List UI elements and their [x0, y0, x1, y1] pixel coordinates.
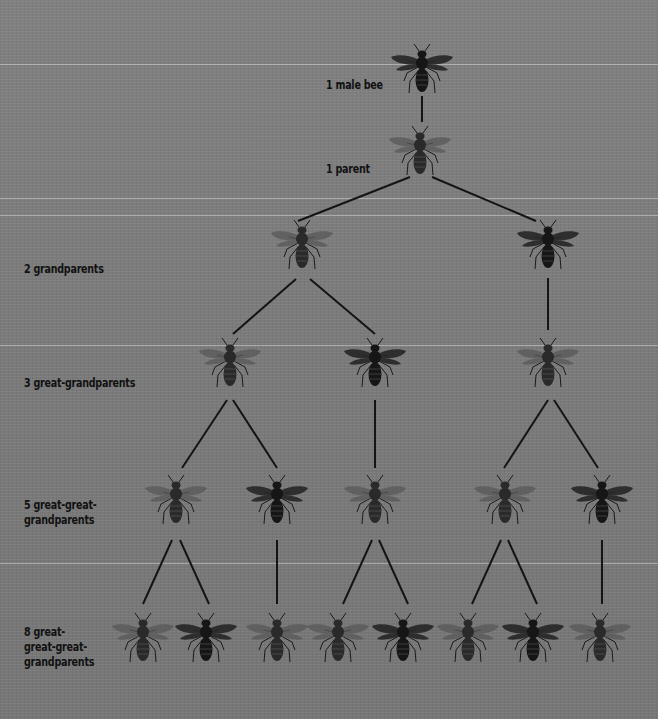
female-bee-icon	[342, 474, 408, 532]
female-bee-icon	[305, 612, 371, 670]
level-label-great-grandparents: 3 great-grandparents	[24, 375, 135, 390]
female-bee-icon	[472, 474, 538, 532]
female-bee-icon	[435, 612, 501, 670]
male-bee-icon	[515, 219, 581, 277]
male-bee-icon	[173, 612, 239, 670]
male-bee-icon	[370, 612, 436, 670]
connector-line	[508, 540, 537, 604]
connector-line	[472, 540, 501, 604]
male-bee-icon	[342, 337, 408, 395]
female-bee-icon	[110, 612, 176, 670]
female-bee-icon	[515, 337, 581, 395]
female-bee-icon	[269, 219, 335, 277]
connector-line	[298, 177, 410, 221]
female-bee-icon	[567, 612, 633, 670]
level-label-great-great-grandparents: 5 great-great- grandparents	[24, 497, 96, 527]
level-label-great-great-great-grandparents: 8 great- great-great- grandparents	[24, 624, 94, 669]
male-bee-icon	[389, 43, 455, 101]
connector-line	[310, 279, 375, 334]
connector-line	[143, 540, 172, 604]
female-bee-icon	[387, 125, 453, 183]
connector-line	[554, 400, 598, 468]
connector-line	[233, 279, 296, 334]
connector-line	[504, 400, 548, 468]
female-bee-icon	[244, 612, 310, 670]
male-bee-icon	[244, 474, 310, 532]
level-label-grandparents: 2 grandparents	[24, 261, 104, 276]
connector-line	[343, 540, 372, 604]
connector-line	[182, 400, 227, 468]
connector-line	[432, 177, 536, 221]
level-label-parent: 1 parent	[326, 161, 370, 176]
male-bee-icon	[569, 474, 635, 532]
male-bee-icon	[500, 612, 566, 670]
connector-line	[233, 400, 277, 468]
connector-line	[180, 540, 209, 604]
female-bee-icon	[143, 474, 209, 532]
connector-line	[379, 540, 408, 604]
female-bee-icon	[197, 337, 263, 395]
level-label-male-bee: 1 male bee	[326, 77, 383, 92]
